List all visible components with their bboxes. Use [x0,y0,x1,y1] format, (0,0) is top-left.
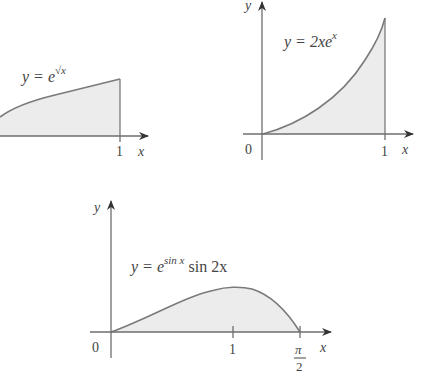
y-axis-label: y [243,0,252,13]
tick-label-0: 0 [245,142,252,157]
tick-label-0: 0 [92,340,99,355]
x-axis-label: x [137,144,145,159]
x-axis-label: x [319,340,327,355]
equation-label: y = esin x sin 2x [129,254,227,276]
y-axis-label: y [92,200,101,215]
tick-label-1: 1 [116,144,123,159]
tick-label-pi: π [295,342,302,357]
tick-label-2: 2 [296,359,303,374]
tick-label-1: 1 [229,342,236,357]
equation-label: y = 2xex [282,29,337,51]
graph-2xex: y 0 1 x y = 2xex [243,0,413,160]
x-axis-label: x [401,142,409,157]
shaded-region [111,287,300,332]
graph-exp-sqrt: 1 x y = e√x [0,64,148,159]
tick-label-1: 1 [381,144,388,159]
equation-label: y = e√x [20,64,66,86]
graph-esinx-sin2x: y 0 1 π 2 x y = esin x sin 2x [90,200,331,374]
figure-canvas: 1 x y = e√x y 0 1 x y = 2xex y 0 1 π 2 [0,0,439,390]
